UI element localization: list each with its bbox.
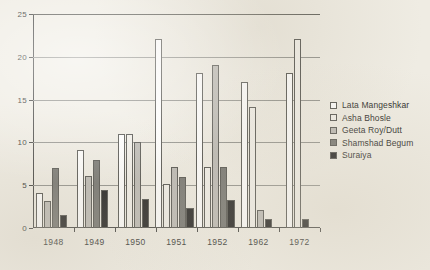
bar-1972-lata-mangeshkar bbox=[286, 73, 293, 228]
legend-item-asha-bhosle: Asha Bhosle bbox=[330, 113, 413, 123]
x-tick-mark-1950 bbox=[156, 228, 157, 232]
bar-1950-suraiya bbox=[142, 199, 149, 228]
y-tick-mark-10 bbox=[29, 142, 33, 143]
bar-1950-asha-bhosle bbox=[126, 134, 133, 228]
bar-group-1951 bbox=[155, 14, 193, 228]
bar-group-1950 bbox=[118, 14, 149, 228]
x-tick-mark-1972 bbox=[320, 228, 321, 232]
x-tick-mark-1948 bbox=[74, 228, 75, 232]
y-tick-label-0: 0 bbox=[22, 224, 27, 233]
x-tick-label-1948: 1948 bbox=[43, 237, 64, 247]
legend-item-suraiya: Suraiya bbox=[330, 150, 413, 160]
bar-1951-shamshad-begum bbox=[179, 177, 186, 228]
legend-label-asha-bhosle: Asha Bhosle bbox=[342, 113, 391, 123]
y-tick-mark-0 bbox=[29, 228, 33, 229]
x-tick-mark-1962 bbox=[279, 228, 280, 232]
bar-1951-geeta-roy-dutt bbox=[171, 167, 178, 228]
bar-1962-suraiya bbox=[265, 219, 272, 228]
legend-swatch-asha-bhosle bbox=[330, 114, 337, 121]
bar-1948-shamshad-begum bbox=[52, 168, 59, 228]
y-tick-mark-25 bbox=[29, 14, 33, 15]
bar-1949-geeta-roy-dutt bbox=[85, 176, 92, 228]
bar-1948-lata-mangeshkar bbox=[36, 193, 43, 228]
bar-1972-suraiya bbox=[302, 219, 309, 228]
bar-1962-geeta-roy-dutt bbox=[257, 210, 264, 228]
bar-1948-geeta-roy-dutt bbox=[44, 201, 51, 228]
y-tick-label-20: 20 bbox=[18, 52, 28, 61]
legend-label-lata-mangeshkar: Lata Mangeshkar bbox=[342, 100, 409, 110]
x-tick-label-1951: 1951 bbox=[166, 237, 187, 247]
bar-1950-lata-mangeshkar bbox=[118, 134, 125, 228]
grouped-bar-chart: 0510152025 1948194919501951195219621972 … bbox=[0, 0, 430, 270]
bar-1951-suraiya bbox=[186, 208, 193, 228]
bar-1951-asha-bhosle bbox=[163, 184, 170, 228]
y-tick-mark-5 bbox=[29, 185, 33, 186]
bar-1952-shamshad-begum bbox=[220, 167, 227, 228]
legend-swatch-geeta-roy-dutt bbox=[330, 127, 337, 134]
x-tick-mark-1949 bbox=[115, 228, 116, 232]
legend-label-suraiya: Suraiya bbox=[342, 150, 372, 160]
bar-1952-geeta-roy-dutt bbox=[212, 65, 219, 228]
x-tick-label-1952: 1952 bbox=[207, 237, 228, 247]
bar-1972-asha-bhosle bbox=[294, 39, 301, 228]
x-tick-label-1972: 1972 bbox=[289, 237, 310, 247]
bar-1949-lata-mangeshkar bbox=[77, 150, 84, 228]
y-tick-mark-20 bbox=[29, 57, 33, 58]
bar-1949-suraiya bbox=[101, 190, 108, 228]
legend-item-geeta-roy-dutt: Geeta Roy/Dutt bbox=[330, 125, 413, 135]
y-tick-label-25: 25 bbox=[18, 10, 28, 19]
legend-swatch-lata-mangeshkar bbox=[330, 102, 337, 109]
legend-label-shamshad-begum: Shamshad Begum bbox=[342, 138, 413, 148]
bar-group-1948 bbox=[36, 14, 67, 228]
bar-1952-lata-mangeshkar bbox=[196, 73, 203, 228]
legend-swatch-suraiya bbox=[330, 152, 337, 159]
x-tick-mark-1951 bbox=[197, 228, 198, 232]
legend-item-shamshad-begum: Shamshad Begum bbox=[330, 138, 413, 148]
legend-item-lata-mangeshkar: Lata Mangeshkar bbox=[330, 100, 413, 110]
x-tick-label-1950: 1950 bbox=[125, 237, 146, 247]
bar-1952-asha-bhosle bbox=[204, 167, 211, 228]
x-tick-mark-1952 bbox=[238, 228, 239, 232]
x-tick-label-1962: 1962 bbox=[248, 237, 269, 247]
bar-group-1949 bbox=[77, 14, 108, 228]
bar-1952-suraiya bbox=[227, 200, 234, 228]
bar-1962-lata-mangeshkar bbox=[241, 82, 248, 228]
bar-1949-shamshad-begum bbox=[93, 160, 100, 228]
bar-1950-geeta-roy-dutt bbox=[134, 142, 141, 228]
y-tick-mark-15 bbox=[29, 100, 33, 101]
legend-label-geeta-roy-dutt: Geeta Roy/Dutt bbox=[342, 125, 402, 135]
bar-group-1972 bbox=[286, 14, 309, 228]
bar-group-1952 bbox=[196, 14, 234, 228]
x-tick-label-1949: 1949 bbox=[84, 237, 105, 247]
y-tick-label-10: 10 bbox=[18, 138, 28, 147]
plot-area: 0510152025 1948194919501951195219621972 bbox=[33, 14, 320, 228]
bar-group-1962 bbox=[241, 14, 272, 228]
bar-1948-suraiya bbox=[60, 215, 67, 228]
bar-1951-lata-mangeshkar bbox=[155, 39, 162, 228]
bar-1962-asha-bhosle bbox=[249, 107, 256, 228]
y-tick-label-5: 5 bbox=[22, 181, 27, 190]
chart-legend: Lata MangeshkarAsha BhosleGeeta Roy/Dutt… bbox=[330, 100, 413, 160]
y-tick-label-15: 15 bbox=[18, 95, 28, 104]
legend-swatch-shamshad-begum bbox=[330, 139, 337, 146]
